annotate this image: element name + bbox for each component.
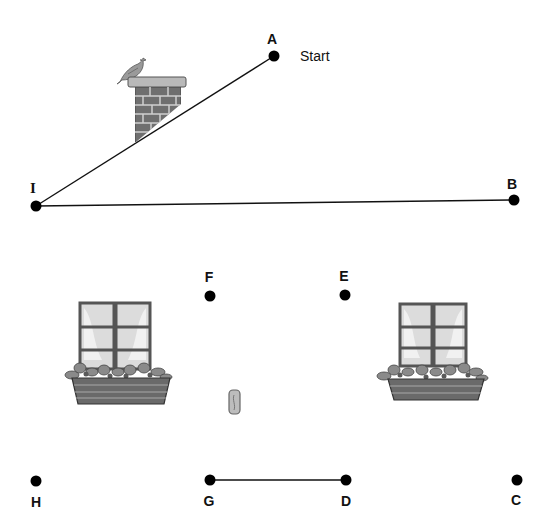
dot-E[interactable] bbox=[340, 290, 351, 301]
dot-label-C: C bbox=[511, 493, 521, 507]
dot-label-D: D bbox=[341, 494, 351, 508]
dots bbox=[31, 51, 523, 487]
dot-label-H: H bbox=[31, 495, 41, 509]
puzzle-canvas bbox=[0, 0, 552, 532]
window-right-illustration bbox=[377, 304, 488, 400]
segment-I-B bbox=[36, 200, 514, 206]
dot-label-E: E bbox=[339, 269, 348, 283]
dot-label-A: A bbox=[267, 32, 277, 46]
dot-label-G: G bbox=[204, 494, 215, 508]
dot-label-I: I bbox=[30, 181, 36, 196]
dot-A[interactable] bbox=[269, 51, 280, 62]
dot-label-B: B bbox=[507, 177, 517, 191]
dot-H[interactable] bbox=[31, 476, 42, 487]
dot-G[interactable] bbox=[205, 475, 216, 486]
dot-B[interactable] bbox=[509, 195, 520, 206]
dot-F[interactable] bbox=[205, 291, 216, 302]
dot-label-F: F bbox=[205, 270, 214, 284]
door-handle-icon bbox=[229, 390, 240, 414]
connect-the-dots-puzzle: ABCDEFGHI Start bbox=[0, 0, 552, 532]
dot-D[interactable] bbox=[341, 475, 352, 486]
start-label: Start bbox=[300, 49, 330, 63]
drawn-lines bbox=[36, 56, 514, 480]
window-left-illustration bbox=[65, 303, 172, 404]
dot-I[interactable] bbox=[31, 201, 42, 212]
dot-C[interactable] bbox=[512, 475, 523, 486]
